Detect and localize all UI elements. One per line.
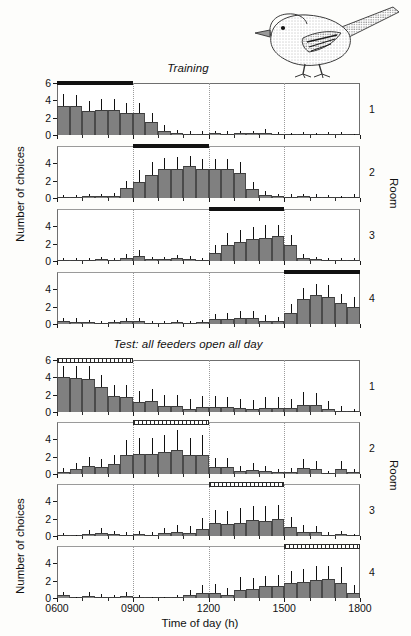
error-bar <box>328 258 329 260</box>
bar <box>347 197 360 198</box>
x-tick-major <box>209 536 210 540</box>
bar <box>95 196 108 198</box>
bar <box>322 197 335 198</box>
x-tick-major <box>57 474 58 478</box>
x-tick-label-0600: 0600 <box>45 602 68 614</box>
error-bar <box>202 320 203 323</box>
bar <box>209 169 222 198</box>
bar <box>171 406 184 412</box>
error-bar <box>63 195 64 197</box>
x-tick-minor <box>259 324 260 327</box>
error-bar <box>164 597 165 598</box>
error-bar <box>202 585 203 593</box>
error-bar <box>265 576 266 586</box>
bar <box>335 583 348 598</box>
error-bar <box>253 227 254 239</box>
bar <box>221 245 234 261</box>
error-bar <box>126 532 127 535</box>
error-bar <box>164 257 165 260</box>
bar <box>70 106 83 135</box>
bar <box>133 402 146 412</box>
room-axis-label-test: Room <box>388 460 400 491</box>
error-bar <box>291 468 292 472</box>
bar <box>246 318 259 324</box>
bar <box>57 595 70 598</box>
bar <box>209 253 222 261</box>
bar <box>259 238 272 261</box>
error-bar <box>253 400 254 409</box>
bar <box>259 195 272 198</box>
bar <box>108 534 121 536</box>
error-bar <box>265 315 266 320</box>
bar <box>70 378 83 412</box>
x-tick-minor <box>108 474 109 477</box>
songbird-illustration-icon <box>243 2 408 78</box>
error-bar <box>164 158 165 169</box>
bar <box>347 307 360 324</box>
x-tick-major <box>284 324 285 328</box>
x-tick-minor <box>108 198 109 201</box>
x-tick-minor <box>310 474 311 477</box>
x-tick-major <box>57 412 58 416</box>
bar <box>209 319 222 324</box>
error-bar <box>328 132 329 134</box>
error-bar <box>240 230 241 242</box>
bar <box>310 295 323 324</box>
x-axis-tick-labels: 06000900120015001800 <box>57 600 360 616</box>
bar <box>284 408 297 412</box>
y-tick-label: 2 <box>45 238 51 249</box>
y-tick-label: 0 <box>45 469 51 480</box>
bar <box>297 134 310 135</box>
y-tick-label: 4 <box>45 434 51 445</box>
bar <box>82 534 95 536</box>
x-tick-major <box>133 536 134 540</box>
bar <box>171 450 184 474</box>
x-tick-minor <box>183 324 184 327</box>
bar <box>259 133 272 135</box>
error-bar <box>152 389 153 401</box>
bar <box>234 590 247 598</box>
bar <box>347 593 360 598</box>
bar <box>347 472 360 474</box>
x-tick-minor <box>82 324 83 327</box>
error-bar <box>139 103 140 113</box>
x-tick-minor <box>183 135 184 138</box>
error-bar <box>164 125 165 130</box>
bar <box>297 258 310 261</box>
x-tick-minor <box>183 198 184 201</box>
x-tick-label-1800: 1800 <box>348 602 371 614</box>
bar <box>284 527 297 536</box>
x-tick-minor <box>158 536 159 539</box>
error-bar <box>328 195 329 197</box>
error-bar <box>114 193 115 196</box>
bar <box>82 111 95 135</box>
y-tick-label: 2 <box>45 513 51 524</box>
error-bar <box>190 590 191 595</box>
bar <box>322 473 335 474</box>
error-bar <box>227 313 228 319</box>
x-tick-major <box>360 324 361 328</box>
error-bar <box>177 430 178 450</box>
panel-test-room-3: 0243 <box>57 484 360 536</box>
error-bar <box>215 396 216 407</box>
error-bar <box>253 182 254 190</box>
error-bar <box>89 530 90 534</box>
error-bar <box>76 258 77 260</box>
bar <box>120 596 133 598</box>
y-tick-label: 2 <box>45 175 51 186</box>
bar <box>133 454 146 474</box>
x-tick-major <box>284 536 285 540</box>
error-bar <box>278 132 279 134</box>
panel-training-room-4: 0244 <box>57 272 360 324</box>
error-bar <box>227 458 228 468</box>
error-bar <box>328 532 329 535</box>
bar <box>108 196 121 198</box>
x-tick-major <box>209 474 210 478</box>
bar <box>133 597 146 598</box>
bar <box>221 407 234 412</box>
error-bar <box>177 130 178 133</box>
x-tick-label-1200: 1200 <box>197 602 220 614</box>
bar <box>158 169 171 198</box>
error-bar <box>202 258 203 260</box>
error-bar <box>202 435 203 455</box>
